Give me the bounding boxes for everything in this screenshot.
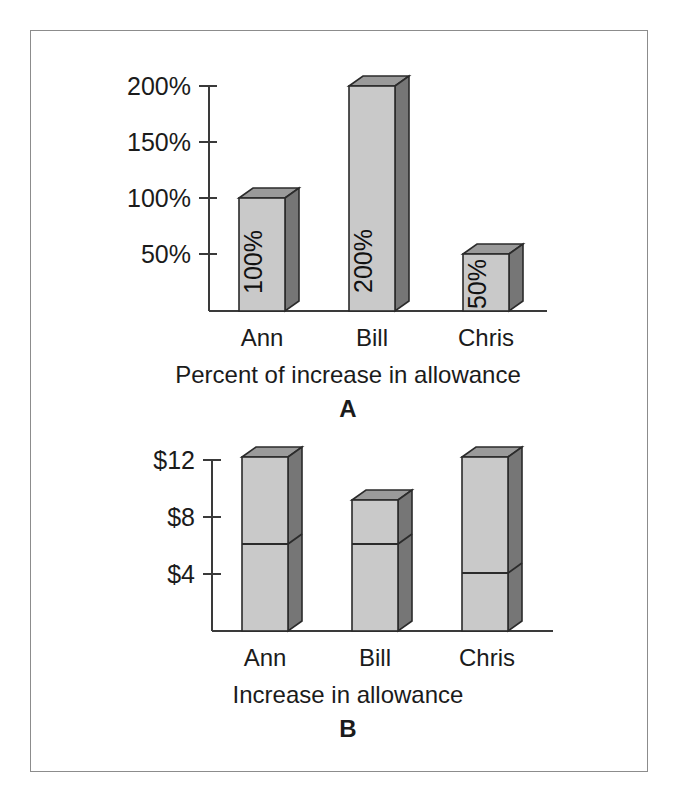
panel-a-category-chris: Chris <box>458 324 514 351</box>
panel-b-tick-label-8: $8 <box>167 503 195 531</box>
panel-a-bar-bill: 200% <box>349 76 409 311</box>
panel-a-tick-label-150: 150% <box>127 128 191 156</box>
panel-a-category-bill: Bill <box>356 324 388 351</box>
panel-b-bar-chris-front <box>462 457 508 631</box>
panel-a-bar-bill-value: 200% <box>349 229 377 293</box>
panel-b-bar-chris <box>462 447 522 631</box>
panel-a-caption: Percent of increase in allowance <box>175 361 521 388</box>
panel-b-tick-label-4: $4 <box>167 560 195 588</box>
panel-b-chart-block: $12 $8 $4 <box>31 426 649 771</box>
panel-b-tick-label-12: $12 <box>153 446 195 474</box>
panel-b-bar-ann <box>242 447 302 631</box>
panel-a-category-ann: Ann <box>241 324 284 351</box>
panel-b-bar-bill-front <box>352 500 398 631</box>
panel-b-category-bill: Bill <box>359 644 391 671</box>
panel-a-tick-label-200: 200% <box>127 72 191 100</box>
panel-b-category-ann: Ann <box>244 644 287 671</box>
panel-a-bar-chris-value: 50% <box>463 259 491 309</box>
panel-a-bar-ann-value: 100% <box>239 230 267 294</box>
panel-b-svg: $12 $8 $4 <box>31 426 649 771</box>
panel-a-bar-bill-side <box>395 76 409 311</box>
panel-a-bar-ann: 100% <box>239 188 299 311</box>
panel-a-bar-ann-side <box>285 188 299 311</box>
figure-frame: 200% 150% 100% 50% 100% 200% <box>30 30 648 772</box>
panel-a-svg: 200% 150% 100% 50% 100% 200% <box>31 31 649 421</box>
panel-a-bar-chris: 50% <box>463 244 523 311</box>
panel-a-bar-chris-side <box>509 244 523 311</box>
panel-b-bar-bill-side <box>398 490 412 631</box>
panel-a-tick-label-50: 50% <box>141 240 191 268</box>
panel-a-tick-label-100: 100% <box>127 184 191 212</box>
panel-a-letter: A <box>339 395 356 421</box>
panel-b-caption: Increase in allowance <box>233 681 464 708</box>
panel-a-chart-block: 200% 150% 100% 50% 100% 200% <box>31 31 649 421</box>
panel-b-category-chris: Chris <box>459 644 515 671</box>
panel-b-bar-bill <box>352 490 412 631</box>
figure-page: 200% 150% 100% 50% 100% 200% <box>0 0 678 797</box>
panel-b-bar-chris-side <box>508 447 522 631</box>
panel-b-letter: B <box>339 715 356 742</box>
